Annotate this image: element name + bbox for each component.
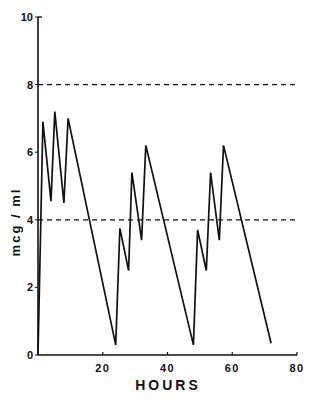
y-axis-label: mcg / ml bbox=[8, 188, 23, 257]
reference-lines bbox=[38, 85, 297, 220]
concentration-chart: 0246810 20406080 mcg / ml HOURS bbox=[0, 0, 314, 406]
y-tick-label: 10 bbox=[21, 11, 33, 23]
x-tick-label: 40 bbox=[160, 362, 175, 374]
y-tick-label: 2 bbox=[27, 281, 33, 293]
data-series bbox=[38, 112, 271, 355]
axes bbox=[38, 17, 297, 355]
concentration-line bbox=[38, 112, 271, 355]
y-tick-label: 0 bbox=[27, 349, 33, 361]
y-tick-label: 6 bbox=[27, 146, 33, 158]
x-axis-label: HOURS bbox=[135, 377, 201, 393]
y-tick-label: 4 bbox=[27, 214, 34, 226]
x-tick-label: 60 bbox=[225, 362, 240, 374]
y-axis-ticks: 0246810 bbox=[21, 11, 38, 361]
x-tick-label: 80 bbox=[289, 362, 304, 374]
x-tick-label: 20 bbox=[95, 362, 110, 374]
y-tick-label: 8 bbox=[27, 79, 33, 91]
